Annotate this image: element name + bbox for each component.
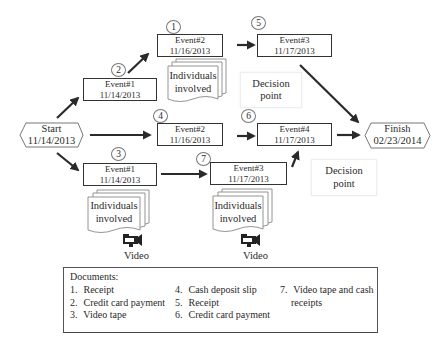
decision-point-top: Decision point xyxy=(240,72,302,108)
event-label: Event#3 xyxy=(211,163,286,174)
decision-line2: point xyxy=(241,90,301,103)
start-node: Start 11/14/2013 xyxy=(20,123,83,147)
document-item: 5. Receipt xyxy=(175,297,270,310)
individuals-line1: Individuals xyxy=(168,70,218,83)
event-box-bot-event3: Event#3 11/17/2013 xyxy=(210,162,287,185)
decision-line1: Decision xyxy=(312,165,376,178)
video-camera-icon xyxy=(241,234,260,247)
event-label: Event#2 xyxy=(158,124,222,135)
start-label: Start xyxy=(20,123,83,135)
video-label: Video xyxy=(243,250,268,261)
event-date: 11/14/2013 xyxy=(84,90,156,101)
individuals-involved-top: Individuals involved xyxy=(168,70,218,95)
finish-node: Finish 02/23/2014 xyxy=(365,123,430,147)
event-date: 11/14/2013 xyxy=(84,175,156,186)
finish-label: Finish xyxy=(365,123,430,135)
doc-number-badge: 6 xyxy=(241,109,256,123)
decision-line2: point xyxy=(312,178,376,191)
arrow-bot-event3-to-mid-event4 xyxy=(292,152,298,167)
event-box-top-event3: Event#3 11/17/2013 xyxy=(257,34,332,57)
individuals-line2: involved xyxy=(168,83,218,96)
document-item: 4. Cash deposit slip xyxy=(175,284,270,297)
individuals-line2: involved xyxy=(88,213,140,226)
video-label: Video xyxy=(124,250,149,261)
event-label: Event#1 xyxy=(84,164,156,175)
doc-number-badge: 7 xyxy=(196,152,211,166)
documents-column-2: 4. Cash deposit slip 5. Receipt 6. Credi… xyxy=(175,284,270,322)
document-item: 7. Video tape and cash xyxy=(280,284,374,297)
event-label: Event#1 xyxy=(84,79,156,90)
individuals-line2: involved xyxy=(213,213,263,226)
arrow-top-event1-to-top-event2 xyxy=(128,54,148,73)
event-label: Event#3 xyxy=(258,35,331,46)
event-box-mid-event4: Event#4 11/17/2013 xyxy=(257,123,332,146)
doc-number-badge: 5 xyxy=(251,16,266,30)
event-box-bot-event1: Event#1 11/14/2013 xyxy=(83,163,157,186)
event-date: 11/16/2013 xyxy=(158,135,222,146)
documents-column-1: 1. Receipt 2. Credit card payment 3. Vid… xyxy=(70,284,165,322)
event-box-mid-event2: Event#2 11/16/2013 xyxy=(157,123,223,146)
arrow-top-event3-to-finish xyxy=(300,65,358,122)
decision-line1: Decision xyxy=(241,78,301,91)
individuals-involved-bottom-mid: Individuals involved xyxy=(213,200,263,225)
event-date: 11/17/2013 xyxy=(211,174,286,185)
individuals-line1: Individuals xyxy=(88,200,140,213)
individuals-involved-bottom-left: Individuals involved xyxy=(88,200,140,225)
start-date: 11/14/2013 xyxy=(20,135,83,147)
event-date: 11/17/2013 xyxy=(258,46,331,57)
video-camera-icon xyxy=(123,234,142,247)
finish-date: 02/23/2014 xyxy=(365,135,430,147)
doc-number-badge: 1 xyxy=(166,20,181,34)
event-box-top-event1: Event#1 11/14/2013 xyxy=(83,78,157,101)
document-item: 2. Credit card payment xyxy=(70,297,165,310)
event-box-top-event2: Event#2 11/16/2013 xyxy=(157,34,223,57)
arrow-start-to-bot-event1 xyxy=(57,153,78,170)
arrow-start-to-top-event1 xyxy=(57,98,78,118)
document-item-continuation: receipts xyxy=(280,297,374,310)
document-item: 1. Receipt xyxy=(70,284,165,297)
event-date: 11/16/2013 xyxy=(158,46,222,57)
event-label: Event#2 xyxy=(158,35,222,46)
event-label: Event#4 xyxy=(258,124,331,135)
documents-title: Documents: xyxy=(70,271,377,284)
individuals-line1: Individuals xyxy=(213,200,263,213)
document-item: 3. Video tape xyxy=(70,309,165,322)
documents-legend: Documents: 1. Receipt 2. Credit card pay… xyxy=(63,267,378,333)
document-item: 6. Credit card payment xyxy=(175,309,270,322)
event-date: 11/17/2013 xyxy=(258,135,331,146)
doc-number-badge: 4 xyxy=(153,109,168,123)
documents-column-3: 7. Video tape and cash receipts xyxy=(280,284,374,309)
decision-point-bottom: Decision point xyxy=(311,159,377,196)
doc-number-badge: 2 xyxy=(111,63,126,77)
doc-number-badge: 3 xyxy=(111,147,126,161)
